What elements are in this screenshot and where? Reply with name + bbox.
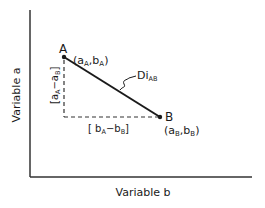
distance-diagram: Variable a Variable b A (aA,bA) B (aB,bB… [0,0,265,208]
horizontal-difference-label: [ bA−bB] [88,123,129,136]
point-b-label: B [165,110,173,124]
point-a-coords: (aA,bA) [73,54,108,68]
point-a-label: A [59,42,68,56]
y-axis-label: Variable a [10,68,23,123]
distance-label: DiAB [137,69,157,83]
vertical-difference-label: [aA−aB] [49,67,62,104]
distance-leader-squiggle [120,76,136,90]
point-b-coords: (aB,bB) [164,124,199,138]
x-axis-label: Variable b [115,186,170,199]
point-b-marker [158,115,162,119]
